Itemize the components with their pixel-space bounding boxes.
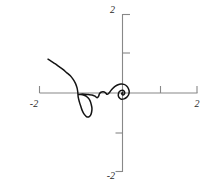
y-axis-label-minus2: -2 xyxy=(107,170,115,181)
x-axis-label-minus2: -2 xyxy=(30,98,38,109)
plot-canvas: -2 2 2 -2 xyxy=(0,0,204,190)
figure-container: -2 2 2 -2 xyxy=(0,0,204,190)
y-axis-label-plus2: 2 xyxy=(110,4,115,15)
data-curve xyxy=(48,59,129,117)
x-axis-label-plus2: 2 xyxy=(195,98,200,109)
